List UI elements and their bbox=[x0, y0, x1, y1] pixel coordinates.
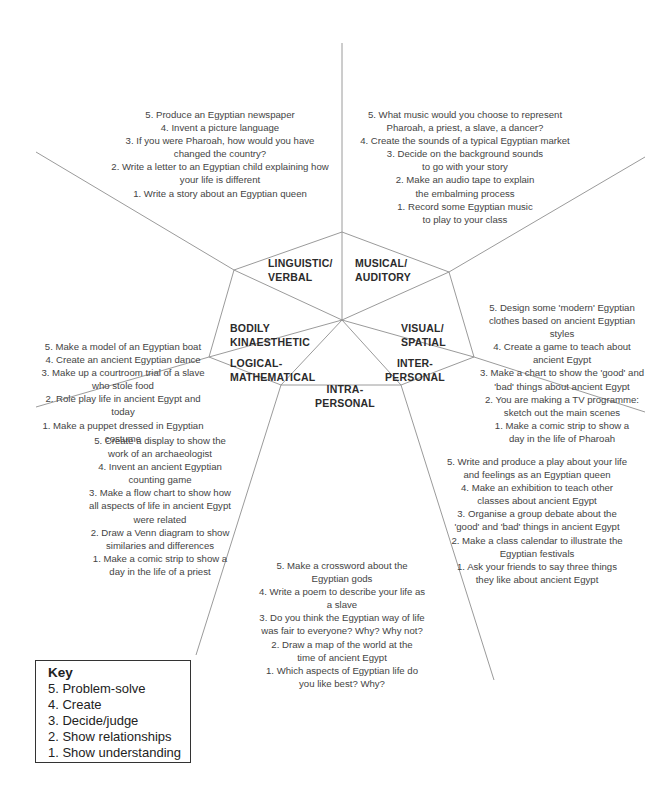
activity-item: 2. Role play life in ancient Egypt and t… bbox=[33, 392, 213, 418]
activity-item: 3. Make up a courtroom trial of a slave … bbox=[33, 366, 213, 392]
activities-interpersonal: 5. Write and produce a play about your l… bbox=[446, 455, 628, 586]
label-intrapersonal: INTRA- PERSONAL bbox=[315, 382, 375, 410]
activities-logical: 5. Create a display to show the work of … bbox=[80, 434, 240, 578]
label-logical: LOGICAL- MATHEMATICAL bbox=[230, 356, 315, 384]
activities-linguistic: 5. Produce an Egyptian newspaper 4. Inve… bbox=[110, 108, 330, 200]
label-musical: MUSICAL/ AUDITORY bbox=[355, 256, 411, 284]
activity-item: 5. Make a model of an Egyptian boat bbox=[33, 340, 213, 353]
activity-item: 1. Make a comic strip to show a day in t… bbox=[478, 419, 646, 445]
activity-item: 3. If you were Pharoah, how would you ha… bbox=[110, 134, 330, 160]
activity-item: 5. Design some 'modern' Egyptian clothes… bbox=[478, 301, 646, 340]
activity-item: 2. Make a class calendar to illustrate t… bbox=[446, 534, 628, 560]
activity-item: 3. Make a chart to show the 'good' and '… bbox=[478, 366, 646, 392]
activity-item: 1. Make a comic strip to show a day in t… bbox=[80, 552, 240, 578]
activity-item: 5. What music would you choose to repres… bbox=[352, 108, 578, 134]
label-interpersonal: INTER- PERSONAL bbox=[385, 356, 445, 384]
activity-item: 2. Draw a map of the world at the time o… bbox=[258, 638, 426, 664]
activity-item: 5. Write and produce a play about your l… bbox=[446, 455, 628, 481]
activity-item: 1. Write a story about an Egyptian queen bbox=[110, 187, 330, 200]
key-item: 1. Show understanding bbox=[48, 745, 190, 761]
label-bodily: BODILY KINAESTHETIC bbox=[230, 321, 310, 349]
activity-item: 1. Which aspects of Egyptian life do you… bbox=[258, 664, 426, 690]
key-item: 5. Problem-solve bbox=[48, 681, 190, 697]
activity-item: 2. Write a letter to an Egyptian child e… bbox=[110, 160, 330, 186]
key-box: Key 5. Problem-solve 4. Create 3. Decide… bbox=[35, 660, 191, 763]
activity-item: 3. Do you think the Egyptian way of life… bbox=[258, 611, 426, 637]
key-item: 3. Decide/judge bbox=[48, 713, 190, 729]
activity-item: 2. Make an audio tape to explain the emb… bbox=[352, 173, 578, 199]
activity-item: 4. Write a poem to describe your life as… bbox=[258, 585, 426, 611]
label-visual: VISUAL/ SPATIAL bbox=[401, 321, 446, 349]
key-item: 4. Create bbox=[48, 697, 190, 713]
activity-item: 3. Organise a group debate about the 'go… bbox=[446, 507, 628, 533]
activity-item: 2. Draw a Venn diagram to show similarie… bbox=[80, 526, 240, 552]
key-title: Key bbox=[48, 665, 190, 681]
activities-bodily: 5. Make a model of an Egyptian boat 4. C… bbox=[33, 340, 213, 445]
activity-item: 1. Ask your friends to say three things … bbox=[446, 560, 628, 586]
activities-intrapersonal: 5. Make a crossword about the Egyptian g… bbox=[258, 559, 426, 690]
activities-visual: 5. Design some 'modern' Egyptian clothes… bbox=[478, 301, 646, 445]
activity-item: 1. Record some Egyptian music to play to… bbox=[352, 200, 578, 226]
activity-item: 2. You are making a TV programme: sketch… bbox=[478, 393, 646, 419]
activity-item: 5. Make a crossword about the Egyptian g… bbox=[258, 559, 426, 585]
activity-item: 4. Create an ancient Egyptian dance bbox=[33, 353, 213, 366]
activity-item: 4. Invent an ancient Egyptian counting g… bbox=[80, 460, 240, 486]
activity-item: 3. Make a flow chart to show how all asp… bbox=[80, 486, 240, 525]
activity-item: 5. Produce an Egyptian newspaper bbox=[110, 108, 330, 121]
activity-item: 5. Create a display to show the work of … bbox=[80, 434, 240, 460]
label-linguistic: LINGUISTIC/ VERBAL bbox=[268, 256, 333, 284]
activity-item: 3. Decide on the background sounds to go… bbox=[352, 147, 578, 173]
activities-musical: 5. What music would you choose to repres… bbox=[352, 108, 578, 226]
key-item: 2. Show relationships bbox=[48, 729, 190, 745]
activity-item: 4. Make an exhibition to teach other cla… bbox=[446, 481, 628, 507]
activity-item: 4. Create a game to teach about ancient … bbox=[478, 340, 646, 366]
activity-item: 4. Invent a picture language bbox=[110, 121, 330, 134]
activity-item: 4. Create the sounds of a typical Egypti… bbox=[352, 134, 578, 147]
